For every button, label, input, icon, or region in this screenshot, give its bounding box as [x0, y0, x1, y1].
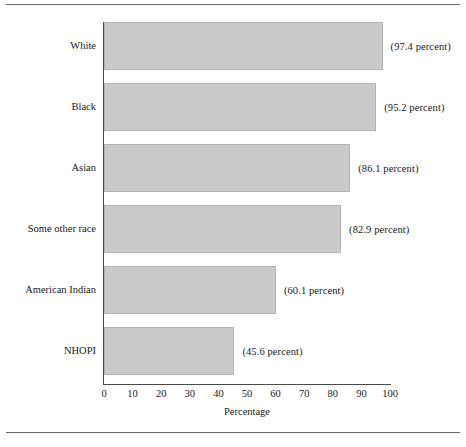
x-tick-10: 10	[127, 388, 138, 399]
x-tick-80: 80	[328, 388, 339, 399]
top-rule	[6, 4, 460, 5]
bar-asian	[104, 144, 350, 192]
bar-some-other-race	[104, 205, 341, 253]
category-label-asian: Asian	[0, 144, 96, 192]
bar-row: (82.9 percent)	[104, 205, 390, 253]
bar-black	[104, 83, 376, 131]
x-tick-50: 50	[242, 388, 253, 399]
plot-area: (97.4 percent)(95.2 percent)(86.1 percen…	[104, 22, 390, 384]
x-axis-line	[103, 384, 391, 385]
bar-value-label: (45.6 percent)	[242, 346, 302, 357]
x-axis-tick-labels: 0102030405060708090100	[104, 388, 390, 402]
x-tick-60: 60	[270, 388, 281, 399]
bar-row: (86.1 percent)	[104, 144, 390, 192]
bar-row: (60.1 percent)	[104, 266, 390, 314]
bar-row: (95.2 percent)	[104, 83, 390, 131]
x-tick-30: 30	[185, 388, 196, 399]
chart-figure: WhiteBlackAsianSome other raceAmerican I…	[0, 0, 466, 447]
bar-white	[104, 22, 383, 70]
category-label-nhopi: NHOPI	[0, 327, 96, 375]
category-axis-labels: WhiteBlackAsianSome other raceAmerican I…	[0, 22, 96, 384]
x-axis-title: Percentage	[104, 406, 390, 417]
bar-series: (97.4 percent)(95.2 percent)(86.1 percen…	[104, 22, 390, 384]
category-label-some-other-race: Some other race	[0, 205, 96, 253]
x-tick-0: 0	[101, 388, 106, 399]
bar-value-label: (95.2 percent)	[384, 102, 444, 113]
bar-value-label: (82.9 percent)	[349, 224, 409, 235]
x-tick-90: 90	[356, 388, 367, 399]
bar-nhopi	[104, 327, 234, 375]
bottom-rule	[6, 432, 460, 433]
bar-value-label: (60.1 percent)	[284, 285, 344, 296]
bar-row: (97.4 percent)	[104, 22, 390, 70]
bar-row: (45.6 percent)	[104, 327, 390, 375]
category-label-black: Black	[0, 83, 96, 131]
category-label-white: White	[0, 22, 96, 70]
category-label-american-indian: American Indian	[0, 266, 96, 314]
x-tick-40: 40	[213, 388, 224, 399]
x-tick-70: 70	[299, 388, 310, 399]
x-tick-20: 20	[156, 388, 167, 399]
bar-american-indian	[104, 266, 276, 314]
bar-value-label: (86.1 percent)	[358, 163, 418, 174]
x-tick-100: 100	[382, 388, 398, 399]
bar-value-label: (97.4 percent)	[391, 41, 451, 52]
